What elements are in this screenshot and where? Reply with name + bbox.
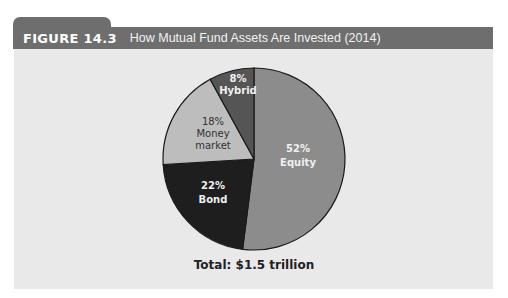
bond-pct: 22% [183, 180, 243, 192]
pie-chart [0, 0, 508, 298]
money-market-name-1: Money [180, 128, 246, 140]
equity-pct: 52% [268, 143, 328, 155]
money-market-pct: 18% [180, 116, 246, 128]
total-label: Total: $1.5 trillion [0, 258, 508, 272]
equity-name: Equity [268, 157, 328, 169]
hybrid-name: Hybrid [215, 85, 261, 97]
label-equity: 52% Equity [268, 143, 328, 169]
bond-name: Bond [183, 194, 243, 206]
hybrid-pct: 8% [215, 73, 261, 85]
label-hybrid: 8% Hybrid [215, 73, 261, 97]
label-bond: 22% Bond [183, 180, 243, 206]
label-money-market: 18% Money market [180, 116, 246, 152]
money-market-name-2: market [180, 140, 246, 152]
